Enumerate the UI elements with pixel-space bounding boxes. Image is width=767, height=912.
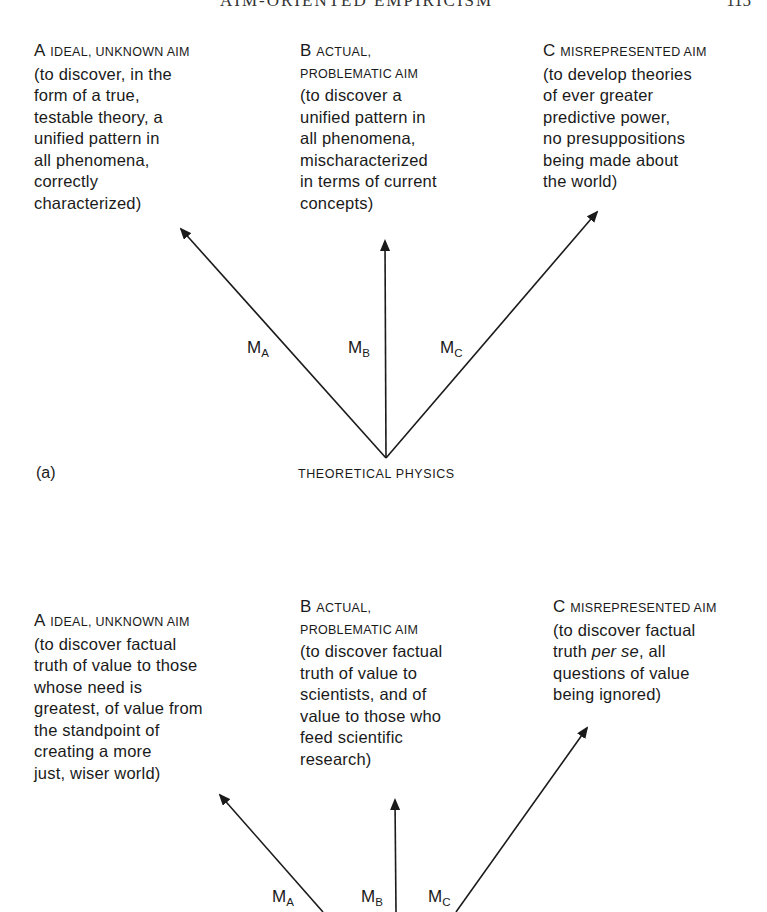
label-mb-a: MB (348, 338, 370, 359)
arrow-mc-a (386, 212, 597, 458)
base-label-theoretical-physics: THEORETICAL PHYSICS (298, 467, 455, 481)
diagram-b-arrows (220, 728, 587, 912)
arrow-diagram (0, 0, 767, 912)
arrow-mc-b (456, 728, 587, 912)
label-ma-a: MA (247, 338, 269, 359)
arrow-mb-b (395, 800, 396, 912)
label-mb-b: MB (361, 887, 383, 908)
panel-label-a: (a) (36, 464, 56, 482)
diagram-a-arrows (181, 212, 597, 458)
arrow-mb-a (385, 241, 386, 458)
label-mc-a: MC (440, 338, 462, 359)
label-ma-b: MA (272, 887, 294, 908)
label-mc-b: MC (428, 887, 450, 908)
